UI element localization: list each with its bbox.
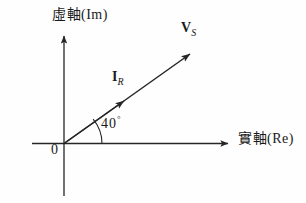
diagram-canvas [0, 0, 306, 203]
phasor-vs-symbol: V [181, 20, 191, 35]
imaginary-axis-label: 虛軸(Im) [52, 8, 108, 22]
angle-value: 40 [101, 116, 117, 131]
angle-label: 40° [101, 115, 121, 131]
real-axis-label: 實軸(Re) [238, 132, 294, 146]
phasor-vs-label: VS [181, 21, 196, 38]
phasor-ir-label: IR [112, 70, 124, 87]
degree-symbol: ° [117, 114, 121, 124]
origin-label: 0 [51, 143, 58, 157]
phasor-ir-subscript: R [117, 76, 123, 87]
phasor-diagram-figure: 虛軸(Im) 實軸(Re) 0 40° VS IR [0, 0, 306, 203]
phasor-vs-subscript: S [191, 27, 196, 38]
